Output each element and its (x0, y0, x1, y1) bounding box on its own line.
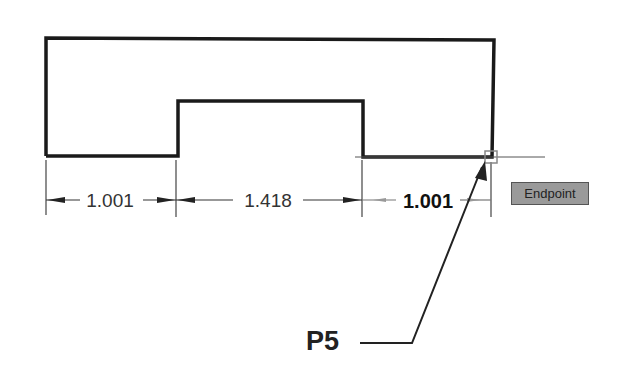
profile-outline[interactable] (46, 38, 494, 157)
arrow-icon (177, 197, 195, 203)
endpoint-tooltip: Endpoint (511, 182, 589, 205)
arrow-icon (373, 198, 386, 202)
dimension-value-3: 1.001 (403, 190, 453, 212)
arrow-icon (475, 161, 487, 181)
arrow-icon (343, 197, 361, 203)
arrow-icon (157, 197, 175, 203)
dimension-value-1: 1.001 (86, 190, 134, 211)
callout-label: P5 (306, 326, 339, 357)
dimension-value-2: 1.418 (244, 190, 292, 211)
arrow-icon (47, 197, 65, 203)
